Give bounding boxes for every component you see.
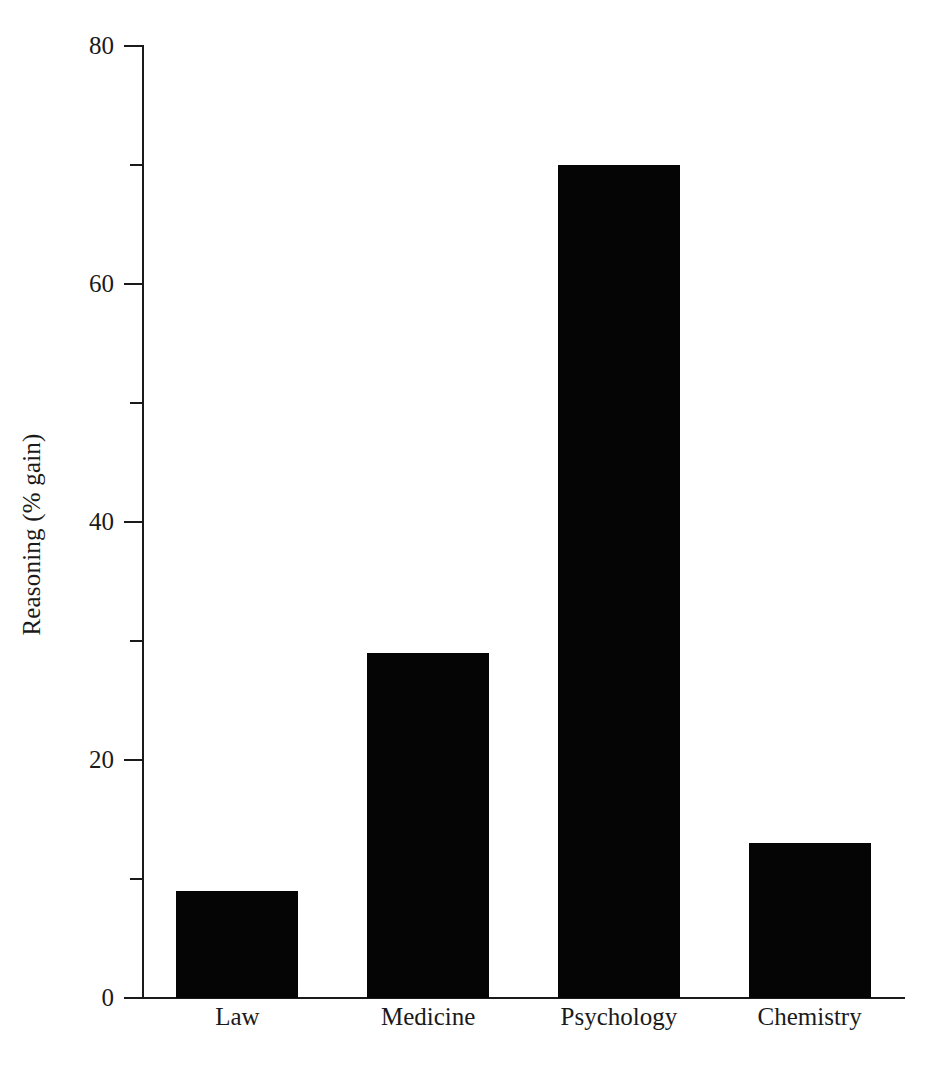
y-tick-label: 40 xyxy=(4,509,114,534)
y-tick-major xyxy=(124,521,144,523)
x-axis-category-label: Medicine xyxy=(333,1004,524,1029)
bar xyxy=(749,843,871,998)
bar xyxy=(176,891,298,998)
bar-chart: Reasoning (% gain) 020406080 LawMedicine… xyxy=(0,0,948,1069)
bar xyxy=(367,653,489,998)
x-axis-category-label: Psychology xyxy=(524,1004,715,1029)
y-axis-title: Reasoning (% gain) xyxy=(0,0,48,1069)
y-tick-major xyxy=(124,997,144,999)
bar xyxy=(558,165,680,998)
y-axis-title-text: Reasoning (% gain) xyxy=(18,433,46,635)
y-tick-label: 60 xyxy=(4,271,114,296)
y-tick-label: 20 xyxy=(4,747,114,772)
y-tick-label: 0 xyxy=(4,985,114,1010)
y-tick-major xyxy=(124,283,144,285)
x-axis-category-label: Law xyxy=(142,1004,333,1029)
plot-area xyxy=(142,46,905,998)
y-tick-major xyxy=(124,759,144,761)
x-axis-category-label: Chemistry xyxy=(714,1004,905,1029)
y-tick-major xyxy=(124,45,144,47)
y-tick-label: 80 xyxy=(4,33,114,58)
